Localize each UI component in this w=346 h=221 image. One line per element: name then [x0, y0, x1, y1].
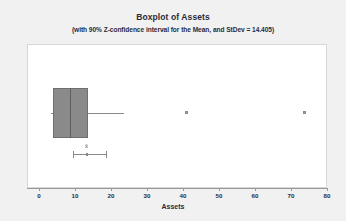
x-tick [147, 188, 148, 191]
whisker-high [88, 113, 124, 114]
x-tick-label: 50 [209, 192, 229, 199]
x-tick [39, 188, 40, 191]
x-tick-label: 80 [317, 192, 337, 199]
x-tick [183, 188, 184, 191]
x-tick-label: 0 [29, 192, 49, 199]
x-tick-label: 70 [281, 192, 301, 199]
outlier-point [303, 111, 306, 114]
chart-title: Boxplot of Assets [0, 12, 346, 22]
x-tick-label: 30 [137, 192, 157, 199]
x-tick [291, 188, 292, 191]
x-tick-label: 40 [173, 192, 193, 199]
ci-line [73, 154, 106, 155]
boxplot-figure: Boxplot of Assets (with 90% Z-confidence… [0, 0, 346, 221]
ci-center-mark [86, 153, 88, 156]
x-axis-line [27, 188, 327, 189]
mean-symbol: x̄ [85, 143, 88, 149]
x-tick [219, 188, 220, 191]
x-tick-label: 20 [101, 192, 121, 199]
x-tick [111, 188, 112, 191]
x-tick-label: 60 [245, 192, 265, 199]
outlier-point [185, 111, 188, 114]
x-tick [75, 188, 76, 191]
median-line [70, 88, 71, 138]
x-tick-label: 10 [65, 192, 85, 199]
plot-area: x̄ [27, 44, 327, 188]
ci-cap-lower [73, 151, 74, 158]
x-tick [327, 188, 328, 191]
x-axis-title: Assets [0, 203, 346, 210]
x-tick [255, 188, 256, 191]
ci-cap-upper [106, 151, 107, 158]
chart-subtitle: (with 90% Z-confidence interval for the … [0, 26, 346, 33]
